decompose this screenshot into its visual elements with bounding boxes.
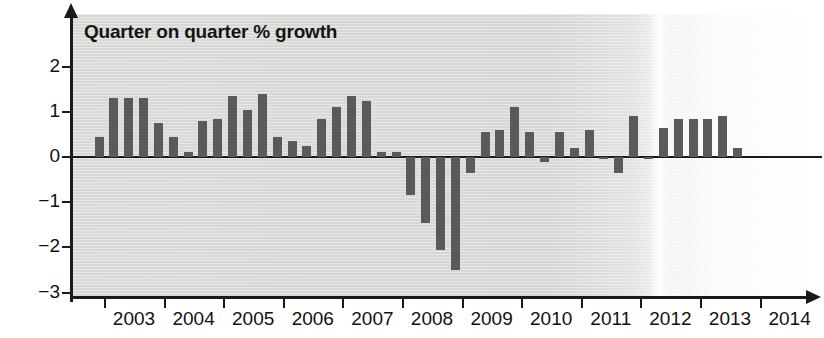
bar [213,119,222,157]
bar [436,157,445,250]
x-axis-tick [164,297,166,308]
bar [733,148,742,157]
bar [570,148,579,157]
y-axis-tick [62,66,72,68]
bar [169,137,178,157]
bar [124,98,133,157]
y-axis-tick-label: −2 [8,235,60,257]
y-axis-arrow-icon [64,3,78,18]
bar [510,107,519,157]
y-axis-tick-label-text: −1 [20,190,60,212]
x-axis-line [70,296,810,299]
bar [659,128,668,157]
bar [184,152,193,157]
y-axis-tick-label-text: −2 [20,235,60,257]
x-axis-tick [223,297,225,308]
chart-title: Quarter on quarter % growth [84,21,337,43]
bar [629,116,638,157]
bar [95,137,104,157]
bar [599,157,608,159]
bar [703,119,712,157]
bar [689,119,698,157]
x-axis-tick [640,297,642,308]
x-axis-tick [521,297,523,308]
y-axis-tick-label: −3 [8,281,60,303]
x-axis-tick [581,297,583,308]
x-axis-tick [402,297,404,308]
bar [451,157,460,270]
y-axis-tick [62,246,72,248]
bar [614,157,623,173]
bar [674,119,683,157]
bar [109,98,118,157]
y-axis-tick-label: 1 [8,100,60,122]
bar [362,101,371,158]
chart-page: 210−1−2−3 200320042005200620072008200920… [0,0,824,338]
x-axis-tick [104,297,106,308]
bar [392,152,401,157]
bar [228,96,237,157]
bar [347,96,356,157]
y-axis-tick [62,156,72,158]
bar [198,121,207,157]
y-axis-tick [62,111,72,113]
x-axis-tick [283,297,285,308]
bar [243,110,252,157]
bar [154,123,163,157]
y-axis-tick [62,292,72,294]
bar [377,152,386,157]
y-axis-tick-label: −1 [8,190,60,212]
x-axis-tick [700,297,702,308]
bar [555,132,564,157]
bar [273,137,282,157]
bar [644,157,653,159]
bar [421,157,430,223]
x-axis-arrow-icon [806,290,821,304]
y-axis-tick-label: 2 [8,55,60,77]
bar [525,132,534,157]
bar-series [0,0,824,338]
y-axis-tick-label-text: 1 [20,100,60,122]
y-axis-tick-label-text: −3 [20,281,60,303]
bar [288,141,297,157]
bar [495,130,504,157]
y-axis-line [70,16,73,302]
bar [317,119,326,157]
y-axis-tick-label: 0 [8,145,60,167]
x-axis-tick [760,297,762,308]
bar [481,132,490,157]
bar [466,157,475,173]
bar [332,107,341,157]
y-axis-tick-label-text: 0 [20,145,60,167]
y-axis-tick [62,201,72,203]
x-axis-tick [342,297,344,308]
bar [718,116,727,157]
bar [406,157,415,195]
bar [258,94,267,157]
y-axis-tick-label-text: 2 [20,55,60,77]
x-axis-tick-label: 2014 [755,308,824,330]
bar [540,157,549,162]
bar [302,146,311,157]
bar [139,98,148,157]
bar [585,130,594,157]
x-axis-tick [462,297,464,308]
